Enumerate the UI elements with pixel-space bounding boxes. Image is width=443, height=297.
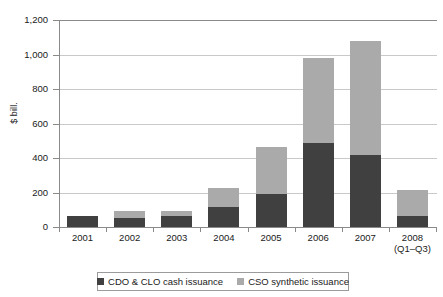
legend-swatch-icon — [97, 278, 104, 285]
bar-segment-cdo-clo-cash[interactable] — [161, 216, 192, 227]
bar-group[interactable] — [303, 20, 334, 227]
x-axis-tick-label: 2008(Q1–Q3) — [389, 232, 436, 254]
x-axis-tick-label-sublabel: (Q1–Q3) — [389, 243, 436, 254]
bars-layer — [59, 20, 436, 227]
bar-group[interactable] — [350, 20, 381, 227]
x-axis-tick-label: 2007 — [342, 232, 389, 243]
y-axis-tick-label: 600 — [0, 118, 48, 129]
x-axis-tick-label-year: 2007 — [355, 232, 376, 243]
bar-stack[interactable] — [350, 41, 381, 227]
bar-segment-cso-synthetic[interactable] — [350, 41, 381, 155]
bar-stack[interactable] — [256, 147, 287, 227]
legend-swatch-icon — [237, 278, 244, 285]
x-axis-tick-label-year: 2004 — [213, 232, 234, 243]
chart-legend: CDO & CLO cash issuanceCSO synthetic iss… — [97, 272, 349, 291]
legend-item-label: CSO synthetic issuance — [248, 276, 349, 287]
y-axis-tick-label: 800 — [0, 83, 48, 94]
x-axis-tick-label-year: 2006 — [308, 232, 329, 243]
x-axis-tick-label: 2002 — [106, 232, 153, 243]
x-axis-tick-mark — [436, 227, 437, 232]
legend-item[interactable]: CSO synthetic issuance — [237, 276, 349, 287]
bar-segment-cso-synthetic[interactable] — [303, 58, 334, 143]
bar-group[interactable] — [397, 20, 428, 227]
x-axis-tick-label-year: 2008 — [402, 232, 423, 243]
x-axis-tick-label: 2004 — [200, 232, 247, 243]
bar-segment-cdo-clo-cash[interactable] — [208, 207, 239, 227]
y-axis-tick-label: 1,200 — [0, 14, 48, 25]
bar-segment-cdo-clo-cash[interactable] — [350, 155, 381, 227]
y-axis-tick-label: 400 — [0, 152, 48, 163]
y-axis-tick-label: 1,000 — [0, 49, 48, 60]
x-axis-tick-label-year: 2005 — [260, 232, 281, 243]
bar-stack[interactable] — [114, 211, 145, 227]
bar-group[interactable] — [67, 20, 98, 227]
bar-group[interactable] — [161, 20, 192, 227]
legend-item-label: CDO & CLO cash issuance — [108, 276, 223, 287]
bar-stack[interactable] — [67, 216, 98, 227]
x-axis-tick-label-year: 2001 — [72, 232, 93, 243]
x-axis-tick-label: 2005 — [248, 232, 295, 243]
bar-group[interactable] — [114, 20, 145, 227]
y-axis-tick-label: 200 — [0, 187, 48, 198]
bar-segment-cdo-clo-cash[interactable] — [303, 143, 334, 227]
x-axis-tick-label: 2006 — [295, 232, 342, 243]
legend-item[interactable]: CDO & CLO cash issuance — [97, 276, 223, 287]
bar-group[interactable] — [256, 20, 287, 227]
bar-segment-cdo-clo-cash[interactable] — [397, 216, 428, 227]
bar-segment-cso-synthetic[interactable] — [256, 147, 287, 194]
y-axis-tick-label: 0 — [0, 221, 48, 232]
x-axis-tick-label: 2001 — [59, 232, 106, 243]
bar-group[interactable] — [208, 20, 239, 227]
bar-segment-cdo-clo-cash[interactable] — [67, 216, 98, 227]
x-axis-tick-label: 2003 — [153, 232, 200, 243]
bar-segment-cdo-clo-cash[interactable] — [114, 218, 145, 227]
x-axis-tick-mark — [59, 227, 60, 232]
x-axis-tick-label-year: 2003 — [166, 232, 187, 243]
bar-stack[interactable] — [161, 211, 192, 227]
bar-segment-cso-synthetic[interactable] — [397, 190, 428, 216]
bar-segment-cso-synthetic[interactable] — [208, 188, 239, 207]
bar-stack[interactable] — [303, 58, 334, 227]
x-axis-tick-label-year: 2002 — [119, 232, 140, 243]
bar-segment-cdo-clo-cash[interactable] — [256, 194, 287, 227]
bar-stack[interactable] — [397, 190, 428, 227]
bar-stack[interactable] — [208, 188, 239, 227]
chart-container: $ bill. 02004006008001,0001,200 20012002… — [0, 0, 443, 297]
